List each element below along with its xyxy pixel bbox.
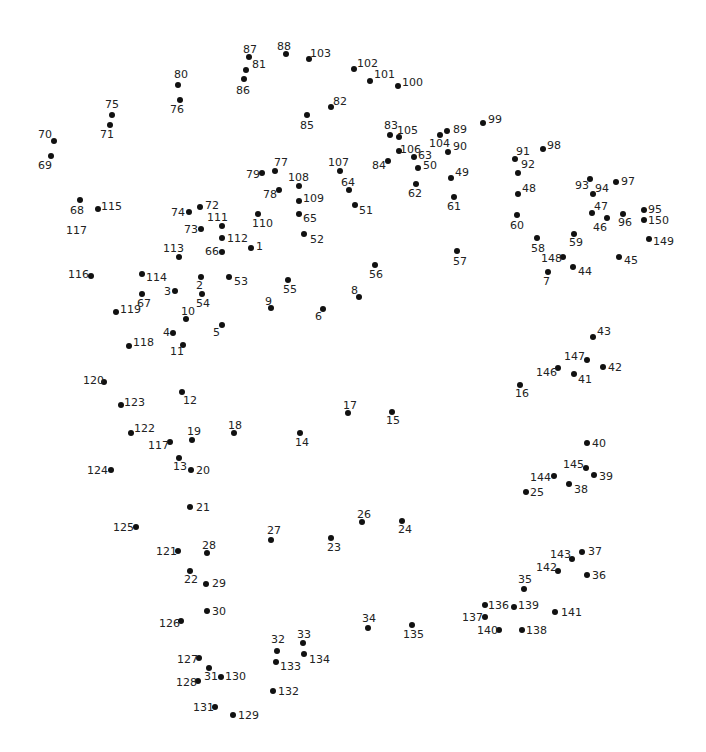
dot-label-78: 78 <box>263 189 277 200</box>
dot-label-81: 81 <box>252 59 266 70</box>
dot-label-13: 13 <box>173 461 187 472</box>
dot-80 <box>175 82 181 88</box>
dot-label-4: 4 <box>163 327 170 338</box>
dot-label-10: 10 <box>181 306 195 317</box>
dot-label-107: 107 <box>328 157 349 168</box>
dot-3 <box>172 288 178 294</box>
dot-label-106: 106 <box>400 144 421 155</box>
dot-21 <box>187 504 193 510</box>
dot-label-72: 72 <box>205 200 219 211</box>
dot-130 <box>218 674 224 680</box>
dot-150 <box>641 217 647 223</box>
dot-98 <box>540 146 546 152</box>
dot-label-32: 32 <box>271 634 285 645</box>
dot-label-73: 73 <box>184 224 198 235</box>
dot-32 <box>274 648 280 654</box>
dot-label-88: 88 <box>277 41 291 52</box>
dot-label-22: 22 <box>184 574 198 585</box>
dot-label-34: 34 <box>362 613 376 624</box>
dot-label-90: 90 <box>453 141 467 152</box>
dot-label-80: 80 <box>174 69 188 80</box>
dot-label-91: 91 <box>516 146 530 157</box>
dot-label-69: 69 <box>38 160 52 171</box>
dot-label-12: 12 <box>183 395 197 406</box>
dot-label-125: 125 <box>113 522 134 533</box>
dot-label-9: 9 <box>265 296 272 307</box>
dot-label-87: 87 <box>243 44 257 55</box>
dot-29 <box>203 581 209 587</box>
dot-label-123: 123 <box>124 397 145 408</box>
dot-label-61: 61 <box>447 201 461 212</box>
dot-label-134: 134 <box>309 654 330 665</box>
dot-86 <box>241 76 247 82</box>
dot-label-28: 28 <box>202 540 216 551</box>
dot-label-24: 24 <box>398 524 412 535</box>
dot-label-77: 77 <box>274 157 288 168</box>
dot-label-103: 103 <box>310 48 331 59</box>
dot-label-19: 19 <box>187 426 201 437</box>
dot-label-14: 14 <box>295 437 309 448</box>
dot-label-5: 5 <box>213 327 220 338</box>
dot-label-70: 70 <box>38 129 52 140</box>
dot-label-52: 52 <box>310 234 324 245</box>
dot-label-135: 135 <box>403 629 424 640</box>
dot-label-31: 31 <box>204 671 218 682</box>
dot-51 <box>352 202 358 208</box>
dot-label-133: 133 <box>280 661 301 672</box>
dot-label-150: 150 <box>648 215 669 226</box>
dot-label-27: 27 <box>267 525 281 536</box>
dot-85 <box>304 112 310 118</box>
dot-label-118: 118 <box>133 337 154 348</box>
dot-label-38: 38 <box>574 484 588 495</box>
dot-label-71: 71 <box>100 129 114 140</box>
dot-label-113: 113 <box>163 243 184 254</box>
dot-label-130: 130 <box>225 671 246 682</box>
dot-label-18: 18 <box>228 420 242 431</box>
dot-label-36: 36 <box>592 570 606 581</box>
dot-60 <box>514 212 520 218</box>
dot-42 <box>600 364 606 370</box>
dot-1 <box>248 245 254 251</box>
dot-124 <box>108 467 114 473</box>
dot-label-98: 98 <box>547 140 561 151</box>
dot-label-1: 1 <box>256 241 263 252</box>
dot-label-76: 76 <box>170 104 184 115</box>
dot-label-64: 64 <box>341 177 355 188</box>
dot-41 <box>571 371 577 377</box>
dot-58 <box>534 235 540 241</box>
dot-label-132: 132 <box>278 686 299 697</box>
dot-label-25: 25 <box>530 487 544 498</box>
dot-label-41: 41 <box>578 374 592 385</box>
dot-label-59: 59 <box>569 237 583 248</box>
dot-129 <box>230 712 236 718</box>
dot-34 <box>365 625 371 631</box>
dot-label-82: 82 <box>333 96 347 107</box>
dot-38 <box>566 481 572 487</box>
dot-37 <box>579 549 585 555</box>
dot-27 <box>268 537 274 543</box>
dot-36 <box>584 572 590 578</box>
dot-label-35: 35 <box>518 574 532 585</box>
dot-label-62: 62 <box>408 188 422 199</box>
dot-100 <box>395 83 401 89</box>
dot-81 <box>243 67 249 73</box>
dot-label-21: 21 <box>196 502 210 513</box>
dot-label-140: 140 <box>477 625 498 636</box>
dot-label-112: 112 <box>227 233 248 244</box>
dot-149 <box>646 236 652 242</box>
dot-label-129: 129 <box>238 710 259 721</box>
dot-label-42: 42 <box>608 362 622 373</box>
dot-44 <box>570 264 576 270</box>
dot-112 <box>219 235 225 241</box>
dot-label-51: 51 <box>359 205 373 216</box>
dot-label-6: 6 <box>315 311 322 322</box>
dot-68 <box>77 197 83 203</box>
dot-73 <box>198 226 204 232</box>
dot-label-105: 105 <box>397 125 418 136</box>
dot-label-149: 149 <box>653 236 674 247</box>
dot-label-46: 46 <box>593 222 607 233</box>
dot-label-126: 126 <box>159 618 180 629</box>
dot-label-56: 56 <box>369 269 383 280</box>
dot-label-99: 99 <box>488 114 502 125</box>
dot-label-102: 102 <box>357 58 378 69</box>
